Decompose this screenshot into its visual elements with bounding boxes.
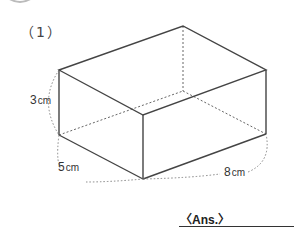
depth-label: 5cm — [58, 160, 79, 174]
hidden-edges — [59, 26, 266, 135]
depth-unit: cm — [66, 162, 79, 173]
length-label: 8cm — [224, 165, 245, 179]
question-number: （1） — [20, 21, 63, 41]
visible-edges — [59, 26, 266, 179]
decorative-arc — [8, 0, 32, 2]
length-unit: cm — [232, 167, 245, 178]
height-label: 3cm — [30, 93, 51, 107]
length-value: 8 — [224, 165, 231, 179]
depth-value: 5 — [58, 160, 65, 174]
height-unit: cm — [38, 95, 51, 106]
answer-field[interactable] — [179, 226, 294, 227]
height-value: 3 — [30, 93, 37, 107]
answer-label: 〈Ans.〉 — [180, 210, 230, 227]
